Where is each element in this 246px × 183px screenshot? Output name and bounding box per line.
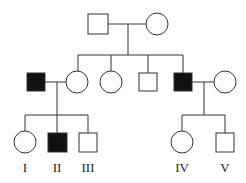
individual-I bbox=[14, 131, 36, 153]
label-II: II bbox=[53, 160, 62, 175]
female-unaffected-g2 bbox=[66, 71, 88, 93]
female-unaffected-g1 bbox=[146, 13, 168, 35]
male-unaffected-g1 bbox=[88, 14, 108, 34]
pedigree-diagram: I II III IV V bbox=[0, 0, 246, 183]
individual-IV bbox=[171, 131, 193, 153]
individual-V bbox=[216, 133, 234, 152]
individual-II bbox=[48, 133, 67, 152]
female-unaffected-g2-wife bbox=[214, 71, 236, 93]
individual-III bbox=[79, 133, 97, 152]
label-I: I bbox=[23, 160, 27, 175]
label-IV: IV bbox=[175, 160, 189, 175]
label-V: V bbox=[220, 160, 230, 175]
male-unaffected-g2 bbox=[139, 73, 157, 91]
female-unaffected-g2 bbox=[100, 71, 122, 93]
male-affected-g2-left bbox=[27, 73, 45, 91]
male-affected-g2-right bbox=[174, 73, 192, 91]
label-III: III bbox=[82, 160, 95, 175]
